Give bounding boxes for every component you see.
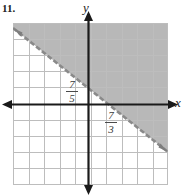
coordinate-plane (0, 0, 187, 195)
x-intercept-denominator: 3 (104, 124, 118, 135)
x-intercept-label: 7 3 (104, 110, 118, 135)
math-figure: 11. (0, 0, 187, 195)
y-intercept-numerator: 7 (65, 79, 79, 90)
x-intercept-numerator: 7 (104, 110, 118, 121)
y-intercept-label: 7 5 (65, 79, 79, 104)
x-axis-label: x (175, 95, 181, 111)
y-intercept-denominator: 5 (65, 93, 79, 104)
y-axis-label: y (83, 0, 89, 16)
